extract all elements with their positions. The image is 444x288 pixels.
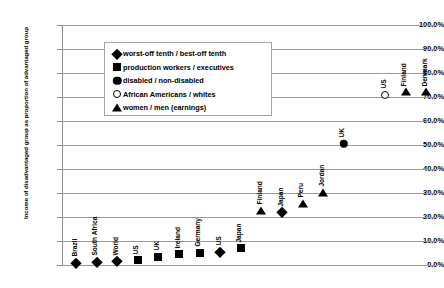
legend-symbol bbox=[111, 103, 123, 113]
triangle-marker-icon bbox=[421, 88, 431, 96]
gridline bbox=[62, 193, 438, 194]
legend-label: women / men (earnings) bbox=[123, 104, 206, 111]
legend-label: disabled / non-disabled bbox=[123, 77, 204, 84]
data-point-label: Jordan bbox=[319, 165, 326, 187]
legend-label: African Americans / whites bbox=[123, 91, 215, 98]
data-point-label: US bbox=[134, 245, 141, 254]
data-point-label: US bbox=[381, 79, 388, 88]
square-marker-icon bbox=[154, 253, 162, 261]
square-marker-icon bbox=[113, 63, 121, 71]
gridline bbox=[62, 265, 438, 266]
open-circle-marker-icon bbox=[113, 90, 121, 98]
data-point-label: Germany bbox=[196, 218, 203, 247]
square-marker-icon bbox=[196, 249, 204, 257]
data-point-label: Ireland bbox=[175, 227, 182, 249]
triangle-marker-icon bbox=[401, 88, 411, 96]
gridline bbox=[62, 25, 438, 26]
legend-symbol bbox=[111, 49, 123, 59]
data-point-label: Japan bbox=[278, 187, 285, 206]
legend-item[interactable]: worst-off tenth / best-off tenth bbox=[111, 47, 271, 61]
diamond-marker-icon bbox=[71, 257, 82, 268]
triangle-marker-icon bbox=[298, 199, 308, 207]
legend-item[interactable]: African Americans / whites bbox=[111, 88, 271, 102]
legend-symbol bbox=[111, 62, 123, 72]
square-marker-icon bbox=[134, 256, 142, 264]
data-point-label: Brazil bbox=[72, 239, 79, 257]
legend-item[interactable]: women / men (earnings) bbox=[111, 101, 271, 115]
scatter-chart: Income of disadvantaged group as proport… bbox=[0, 0, 444, 288]
triangle-marker-icon bbox=[318, 189, 328, 197]
circle-marker-icon bbox=[340, 140, 349, 149]
legend-symbol bbox=[111, 76, 123, 86]
data-point-label: US bbox=[216, 237, 223, 246]
open-circle-marker-icon bbox=[381, 91, 389, 99]
gridline bbox=[62, 217, 438, 218]
diamond-marker-icon bbox=[277, 207, 288, 218]
data-point-label: Finland bbox=[402, 63, 409, 86]
data-point-label: South Africa bbox=[93, 217, 100, 256]
data-point-label: World bbox=[113, 237, 120, 256]
gridline bbox=[62, 169, 438, 170]
circle-marker-icon bbox=[113, 77, 122, 86]
square-marker-icon bbox=[237, 244, 245, 252]
legend-item[interactable]: disabled / non-disabled bbox=[111, 74, 271, 88]
gridline bbox=[62, 121, 438, 122]
triangle-marker-icon bbox=[112, 103, 122, 111]
gridline bbox=[62, 145, 438, 146]
legend-item[interactable]: production workers / executives bbox=[111, 61, 271, 75]
legend-label: production workers / executives bbox=[123, 64, 234, 71]
y-axis-title: Income of disadvantaged group as proport… bbox=[23, 0, 29, 253]
data-point-label: UK bbox=[154, 241, 161, 251]
diamond-marker-icon bbox=[112, 48, 123, 59]
data-point-label: Denmark bbox=[422, 58, 429, 86]
data-point-label: Peru bbox=[299, 183, 306, 198]
data-point-label: Finland bbox=[257, 182, 264, 205]
triangle-marker-icon bbox=[256, 207, 266, 215]
chart-legend: worst-off tenth / best-off tenthproducti… bbox=[104, 42, 272, 116]
legend-label: worst-off tenth / best-off tenth bbox=[123, 50, 226, 57]
square-marker-icon bbox=[175, 250, 183, 258]
legend-symbol bbox=[111, 89, 123, 99]
diamond-marker-icon bbox=[215, 246, 226, 257]
data-point-label: UK bbox=[340, 128, 347, 138]
data-point-label: Japan bbox=[237, 223, 244, 242]
